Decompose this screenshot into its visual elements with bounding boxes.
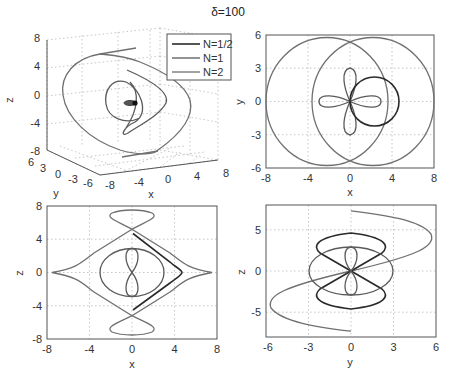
panel-xy: 6 3 0 -3 -6 y -8 -4 0 4 8 x (233, 29, 437, 198)
y-tick: 0 (255, 95, 261, 107)
x-tick: 8 (214, 343, 220, 355)
z-tick: -5 (251, 306, 261, 318)
x-tick: -4 (85, 343, 95, 355)
y-tick: 6 (255, 29, 261, 41)
y-tick: -3 (304, 341, 314, 353)
z-axis-label: z (235, 269, 247, 275)
z-axis-label: z (13, 270, 25, 276)
x-tick: 0 (165, 173, 171, 185)
x-tick: -8 (105, 179, 115, 191)
z-tick: -8 (32, 333, 42, 345)
y-tick: -6 (251, 162, 261, 174)
y-tick: 6 (28, 156, 34, 168)
x-tick: 0 (347, 172, 353, 184)
y-tick: 0 (55, 168, 61, 180)
x-axis-label: x (129, 358, 135, 370)
legend-label: N=2 (203, 66, 224, 78)
x-tick: 0 (129, 343, 135, 355)
x-tick: 4 (194, 170, 200, 182)
x-tick: 4 (389, 172, 395, 184)
x-tick: -8 (261, 172, 271, 184)
legend: N=1/2 N=1 N=2 (167, 34, 233, 80)
x-tick: 4 (171, 343, 177, 355)
z-tick: 4 (36, 233, 42, 245)
z-tick: 4 (34, 60, 40, 72)
x-axis-label: x (347, 186, 353, 198)
y-tick: -3 (251, 129, 261, 141)
figure: δ=100 (0, 0, 451, 380)
y-axis-label: y (53, 187, 59, 199)
y-tick: 0 (348, 341, 354, 353)
z-tick: 0 (34, 89, 40, 101)
panel-xz: 8 4 0 -4 -8 z -8 -4 0 4 8 x (13, 200, 220, 370)
x-axis-label: x (148, 188, 154, 200)
legend-label: N=1/2 (203, 38, 233, 50)
y-tick: -3 (68, 173, 78, 185)
y-tick: 3 (390, 341, 396, 353)
z-tick: -4 (30, 117, 40, 129)
series-n12-3d-dot (132, 100, 137, 105)
y-axis-label: y (347, 356, 353, 368)
z-tick: 0 (255, 265, 261, 277)
z-tick: -4 (32, 300, 42, 312)
y-tick: 3 (40, 162, 46, 174)
legend-label: N=1 (203, 52, 224, 64)
z-axis-label: z (3, 97, 15, 103)
y-tick: -6 (263, 341, 273, 353)
z-tick: 8 (36, 200, 42, 212)
y-tick: 6 (433, 341, 439, 353)
x-tick: -8 (42, 343, 52, 355)
y-axis-label: y (233, 99, 245, 105)
z-tick: 5 (255, 224, 261, 236)
panel-3d: 8 4 0 -4 -8 z 6 3 0 -3 -6 y -8 -4 0 4 8 … (3, 28, 233, 200)
z-tick: 0 (36, 266, 42, 278)
figure-title: δ=100 (211, 5, 245, 19)
y-tick: -6 (83, 177, 93, 189)
x-axis-line (100, 160, 218, 175)
z-tick: 8 (34, 32, 40, 44)
panel-yz: 5 0 -5 z -6 -3 0 3 6 y (235, 205, 439, 368)
x-tick: -4 (303, 172, 313, 184)
x-tick: 8 (223, 167, 229, 179)
x-tick: 8 (431, 172, 437, 184)
y-tick: 3 (255, 62, 261, 74)
x-tick: -4 (134, 176, 144, 188)
